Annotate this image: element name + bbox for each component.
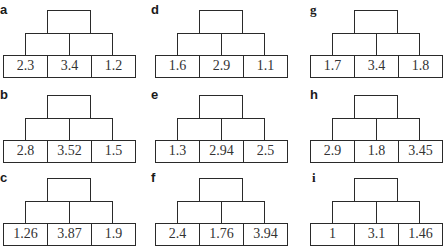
middle-box-left[interactable] — [177, 118, 222, 141]
middle-box-right[interactable] — [376, 118, 420, 141]
pyramid-label: b — [0, 87, 8, 102]
middle-box-left[interactable] — [332, 201, 377, 224]
bottom-cell-3: 1.8 — [398, 55, 443, 78]
bottom-cell-2: 3.1 — [354, 223, 399, 246]
bottom-cell-1: 1.26 — [3, 223, 48, 246]
bottom-cell-3: 2.5 — [243, 140, 288, 163]
pyramid-d: d 1.6 2.9 1.1 — [148, 0, 288, 80]
pyramid-label: h — [310, 87, 318, 102]
bottom-cell-2: 3.87 — [47, 223, 92, 246]
top-box[interactable] — [354, 178, 398, 202]
top-box[interactable] — [199, 95, 243, 119]
middle-box-left[interactable] — [25, 33, 70, 56]
top-box[interactable] — [47, 178, 91, 202]
top-box[interactable] — [354, 95, 398, 119]
bottom-cell-3: 1.5 — [91, 140, 136, 163]
bottom-cell-2: 3.4 — [354, 55, 399, 78]
bottom-cell-1: 1 — [310, 223, 355, 246]
bottom-cell-3: 1.46 — [398, 223, 443, 246]
pyramid-label: e — [151, 87, 158, 102]
bottom-cell-2: 3.52 — [47, 140, 92, 163]
pyramid-i: i 1 3.1 1.46 — [295, 168, 435, 248]
bottom-cell-1: 1.3 — [155, 140, 200, 163]
bottom-cell-2: 2.94 — [199, 140, 244, 163]
bottom-cell-3: 3.94 — [243, 223, 288, 246]
pyramid-c: c 1.26 3.87 1.9 — [0, 168, 140, 248]
middle-box-right[interactable] — [69, 118, 113, 141]
bottom-cell-2: 1.76 — [199, 223, 244, 246]
bottom-cell-2: 3.4 — [47, 55, 92, 78]
top-box[interactable] — [354, 10, 398, 34]
middle-box-right[interactable] — [376, 33, 420, 56]
middle-box-right[interactable] — [69, 33, 113, 56]
bottom-cell-3: 1.2 — [91, 55, 136, 78]
pyramid-label: a — [0, 2, 7, 17]
bottom-cell-3: 1.1 — [243, 55, 288, 78]
pyramid-a: a 2.3 3.4 1.2 — [0, 0, 140, 80]
middle-box-left[interactable] — [332, 118, 377, 141]
pyramid-b: b 2.8 3.52 1.5 — [0, 85, 140, 165]
middle-box-right[interactable] — [221, 201, 265, 224]
top-box[interactable] — [47, 10, 91, 34]
bottom-cell-1: 1.7 — [310, 55, 355, 78]
pyramid-label: f — [151, 170, 155, 185]
bottom-cell-3: 1.9 — [91, 223, 136, 246]
middle-box-right[interactable] — [69, 201, 113, 224]
bottom-cell-1: 2.3 — [3, 55, 48, 78]
middle-box-left[interactable] — [25, 201, 70, 224]
middle-box-left[interactable] — [332, 33, 377, 56]
pyramid-label: c — [0, 170, 7, 185]
pyramid-label: i — [312, 170, 316, 186]
bottom-cell-2: 1.8 — [354, 140, 399, 163]
middle-box-left[interactable] — [177, 201, 222, 224]
bottom-cell-1: 2.4 — [155, 223, 200, 246]
pyramid-label: g — [310, 2, 317, 18]
middle-box-right[interactable] — [221, 33, 265, 56]
pyramid-e: e 1.3 2.94 2.5 — [148, 85, 288, 165]
top-box[interactable] — [199, 10, 243, 34]
bottom-cell-3: 3.45 — [398, 140, 443, 163]
pyramid-g: g 1.7 3.4 1.8 — [295, 0, 435, 80]
middle-box-right[interactable] — [376, 201, 420, 224]
bottom-cell-1: 2.8 — [3, 140, 48, 163]
middle-box-left[interactable] — [177, 33, 222, 56]
top-box[interactable] — [199, 178, 243, 202]
pyramid-label: d — [151, 2, 159, 17]
bottom-cell-2: 2.9 — [199, 55, 244, 78]
pyramid-f: f 2.4 1.76 3.94 — [148, 168, 288, 248]
middle-box-right[interactable] — [221, 118, 265, 141]
middle-box-left[interactable] — [25, 118, 70, 141]
bottom-cell-1: 1.6 — [155, 55, 200, 78]
bottom-cell-1: 2.9 — [310, 140, 355, 163]
pyramid-h: h 2.9 1.8 3.45 — [295, 85, 435, 165]
top-box[interactable] — [47, 95, 91, 119]
